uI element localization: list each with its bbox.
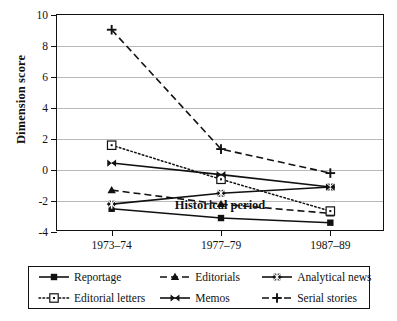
y-tick-label: -4 [38,226,48,238]
y-tick-label: 10 [37,9,49,21]
data-point-marker [327,220,333,226]
legend-item[interactable]: Editorials [158,270,260,284]
plus-icon [260,291,294,305]
data-point-marker [107,159,116,166]
y-tick-label: 6 [42,71,48,83]
y-tick-label: 4 [42,102,48,114]
chart-figure: Dimension score -4-20246810 1973–741977–… [0,0,397,321]
filled-square-icon [37,270,71,284]
legend-item[interactable]: Memos [158,291,260,305]
bowtie-icon [158,291,192,305]
legend-label: Reportage [71,271,121,283]
data-point-marker [107,141,115,149]
x-tick-label: 1987–89 [310,239,350,251]
legend-label: Memos [192,292,230,304]
data-point-marker [218,215,224,221]
legend-row: Editorial lettersMemosSerial stories [29,288,369,309]
filled-triangle-icon [158,270,192,284]
legend-label: Editorials [192,271,240,283]
y-tick-label: 0 [42,164,48,176]
y-tick-label: -2 [38,195,48,207]
chart-legend: ReportageEditorialsAnalytical newsEditor… [28,266,370,309]
y-tick-label: 8 [42,40,48,52]
legend-item[interactable]: Reportage [29,270,158,284]
data-point-marker [216,189,225,198]
y-tick [51,232,57,233]
legend-item[interactable]: Editorial letters [29,291,158,305]
legend-label: Editorial letters [71,292,145,304]
open-square-icon [37,291,71,305]
legend-row: ReportageEditorialsAnalytical news [29,267,369,288]
plot-area: Dimension score -4-20246810 1973–741977–… [0,0,397,245]
asterisk-icon [260,270,294,284]
x-tick-label: 1973–74 [92,239,132,251]
legend-label: Serial stories [294,292,357,304]
x-tick-label: 1977–79 [201,239,241,251]
legend-item[interactable]: Analytical news [260,270,369,284]
data-point-marker [107,186,115,193]
y-tick-label: 2 [42,133,48,145]
x-axis-label: Historical period [56,198,384,213]
legend-item[interactable]: Serial stories [260,291,369,305]
data-point-marker [326,168,336,178]
y-axis-label: Dimension score [14,25,29,175]
legend-label: Analytical news [294,271,371,283]
